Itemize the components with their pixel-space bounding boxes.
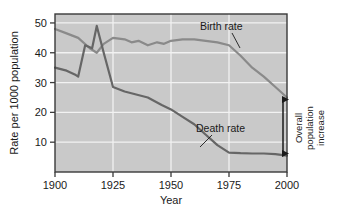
birth-rate-series-label: Birth rate bbox=[200, 20, 243, 32]
y-tick-label: 30 bbox=[35, 77, 47, 89]
x-tick-label: 1975 bbox=[217, 179, 241, 191]
birth-death-rate-line-chart: 1020304050 19001925195019752000 Rate per… bbox=[0, 0, 342, 217]
chart-figure: 1020304050 19001925195019752000 Rate per… bbox=[0, 0, 342, 217]
y-tick-label: 20 bbox=[35, 106, 47, 118]
annotation-label-line1: Overall bbox=[293, 113, 304, 143]
annotation-label-line2: population bbox=[304, 106, 315, 150]
x-tick-label: 1900 bbox=[43, 179, 67, 191]
y-axis: 1020304050 bbox=[35, 17, 55, 148]
x-axis: 19001925195019752000 bbox=[43, 172, 299, 191]
y-tick-label: 10 bbox=[35, 136, 47, 148]
annotation-label-line3: increase bbox=[315, 110, 326, 146]
y-axis-title: Rate per 1000 population bbox=[8, 31, 20, 155]
y-tick-label: 40 bbox=[35, 47, 47, 59]
x-tick-label: 1950 bbox=[159, 179, 183, 191]
y-tick-label: 50 bbox=[35, 17, 47, 29]
x-tick-label: 2000 bbox=[275, 179, 299, 191]
x-axis-title: Year bbox=[160, 194, 183, 206]
death-rate-series-label: Death rate bbox=[196, 122, 245, 134]
x-tick-label: 1925 bbox=[101, 179, 125, 191]
